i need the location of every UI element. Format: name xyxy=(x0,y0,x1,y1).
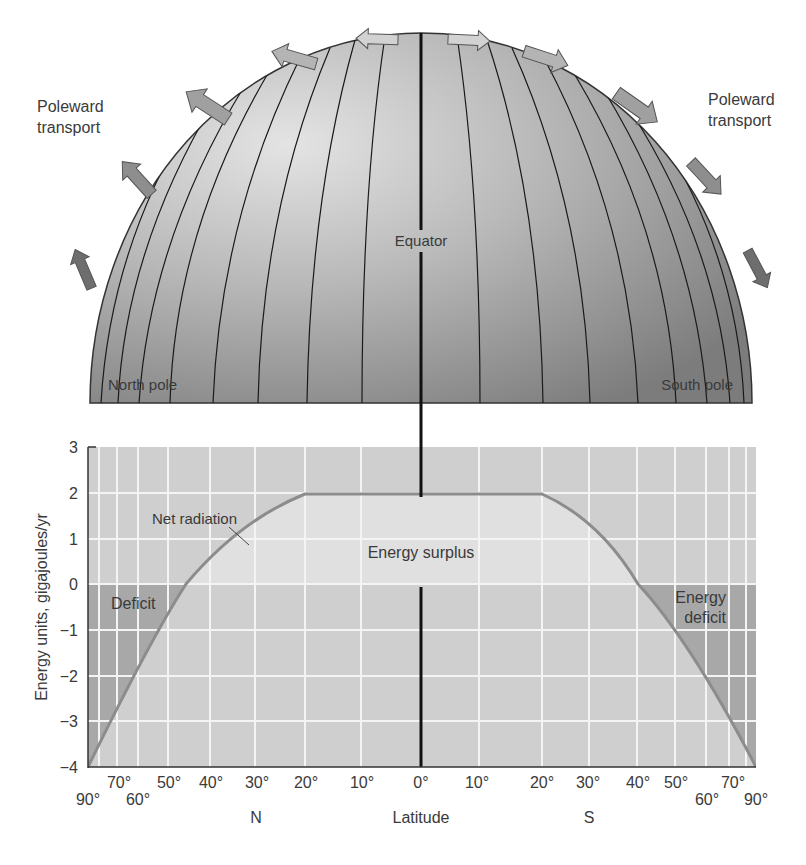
svg-text:3: 3 xyxy=(69,439,78,456)
poleward-transport-right-line1: Poleward xyxy=(708,91,775,108)
svg-text:10°: 10° xyxy=(465,774,489,791)
svg-text:40°: 40° xyxy=(199,774,223,791)
svg-text:−1: −1 xyxy=(60,622,78,639)
energy-deficit-right-line2: deficit xyxy=(684,609,726,626)
energy-surplus-label: Energy surplus xyxy=(368,544,475,561)
svg-text:−2: −2 xyxy=(60,668,78,685)
svg-text:30°: 30° xyxy=(576,774,600,791)
svg-text:−4: −4 xyxy=(60,759,78,776)
energy-deficit-right-line1: Energy xyxy=(675,589,726,606)
net-radiation-chart xyxy=(88,447,756,768)
svg-text:70°: 70° xyxy=(721,774,745,791)
x-axis-label: Latitude xyxy=(393,809,450,826)
y-tick-labels: 3 2 1 0 −1 −2 −3 −4 xyxy=(60,439,78,776)
south-hemisphere-label: S xyxy=(584,809,595,826)
svg-text:2: 2 xyxy=(69,485,78,502)
south-pole-label: South pole xyxy=(661,376,733,393)
svg-text:0°: 0° xyxy=(413,774,428,791)
x-tick-labels-upper: 70° 50° 40° 30° 20° 10° 0° 10° 20° 30° 4… xyxy=(107,774,745,791)
net-radiation-label: Net radiation xyxy=(152,510,237,527)
svg-text:50°: 50° xyxy=(664,774,688,791)
svg-text:10°: 10° xyxy=(350,774,374,791)
svg-text:50°: 50° xyxy=(157,774,181,791)
svg-text:0: 0 xyxy=(69,576,78,593)
north-pole-label: North pole xyxy=(108,376,177,393)
arrow-right-icon xyxy=(739,246,776,292)
svg-text:60°: 60° xyxy=(126,791,150,808)
poleward-transport-left-line1: Poleward xyxy=(37,98,104,115)
svg-text:20°: 20° xyxy=(294,774,318,791)
equator-label: Equator xyxy=(395,232,448,249)
svg-text:20°: 20° xyxy=(530,774,554,791)
deficit-left-label: Deficit xyxy=(111,595,156,612)
svg-text:90°: 90° xyxy=(76,791,100,808)
poleward-transport-left-line2: transport xyxy=(37,119,101,136)
arrow-left-icon xyxy=(66,246,101,292)
svg-text:40°: 40° xyxy=(626,774,650,791)
svg-text:70°: 70° xyxy=(107,774,131,791)
north-hemisphere-label: N xyxy=(250,809,262,826)
svg-text:−3: −3 xyxy=(60,713,78,730)
energy-balance-diagram: Equator North pole South pole Poleward t… xyxy=(0,0,806,865)
x-tick-labels-lower: 90° 60° 60° 90° xyxy=(76,791,768,808)
poleward-transport-right-line2: transport xyxy=(708,112,772,129)
svg-text:90°: 90° xyxy=(744,791,768,808)
y-axis-label: Energy units, gigajoules/yr xyxy=(33,513,50,701)
svg-text:1: 1 xyxy=(69,531,78,548)
svg-text:30°: 30° xyxy=(245,774,269,791)
svg-text:60°: 60° xyxy=(695,791,719,808)
